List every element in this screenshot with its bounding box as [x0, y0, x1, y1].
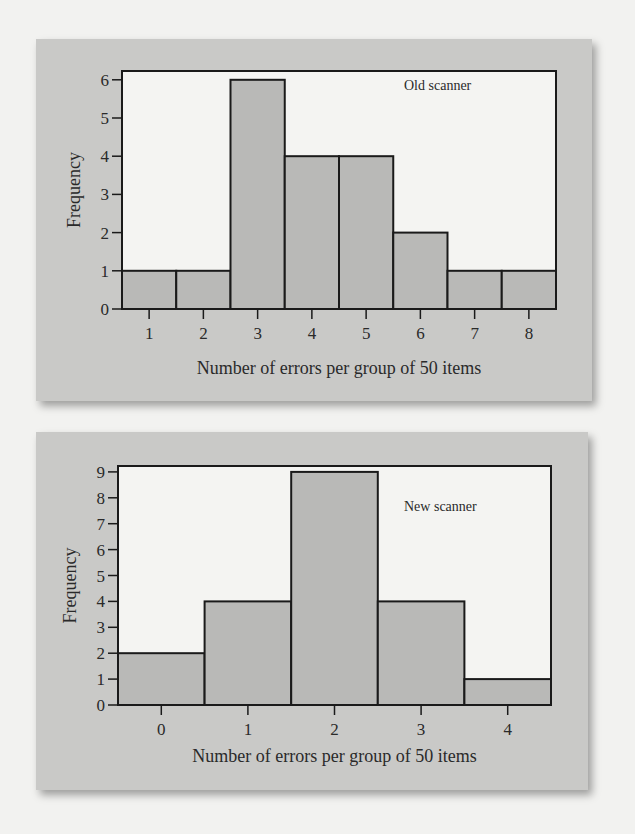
y-tick-label: 5 — [101, 109, 110, 128]
y-tick-label: 9 — [97, 463, 106, 482]
chart-annotation: Old scanner — [404, 78, 472, 93]
x-tick-label: 4 — [503, 720, 512, 739]
histogram-bar — [122, 271, 176, 309]
chart-annotation: New scanner — [404, 499, 477, 514]
y-tick-label: 0 — [101, 300, 110, 319]
x-tick-label: 3 — [253, 324, 262, 343]
histogram-bar — [502, 271, 556, 309]
histogram-bar — [378, 601, 465, 705]
y-axis-label: Frequency — [64, 152, 84, 228]
x-axis-label: Number of errors per group of 50 items — [192, 746, 476, 766]
x-tick-label: 3 — [417, 720, 426, 739]
y-tick-label: 0 — [97, 696, 106, 715]
y-tick-label: 8 — [97, 489, 106, 508]
old-scanner-histogram: 012345612345678Number of errors per grou… — [36, 39, 592, 401]
histogram-bar — [393, 233, 447, 309]
x-tick-label: 7 — [470, 324, 479, 343]
y-axis-label: Frequency — [60, 548, 80, 624]
x-tick-label: 1 — [244, 720, 253, 739]
y-tick-label: 3 — [101, 185, 110, 204]
histogram-bar — [339, 156, 393, 309]
x-tick-label: 6 — [416, 324, 425, 343]
y-tick-label: 7 — [97, 515, 106, 534]
x-tick-label: 5 — [362, 324, 371, 343]
x-tick-label: 1 — [145, 324, 154, 343]
y-tick-label: 2 — [101, 224, 110, 243]
histogram-bar — [231, 80, 285, 309]
new-scanner-histogram: 012345678901234Number of errors per grou… — [36, 432, 588, 790]
y-tick-label: 6 — [97, 541, 106, 560]
x-tick-label: 4 — [308, 324, 317, 343]
y-tick-label: 4 — [97, 592, 106, 611]
x-tick-label: 0 — [157, 720, 166, 739]
histogram-bar — [285, 156, 339, 309]
y-tick-label: 5 — [97, 567, 106, 586]
new-scanner-panel: 012345678901234Number of errors per grou… — [36, 432, 588, 790]
histogram-bar — [448, 271, 502, 309]
y-tick-label: 4 — [101, 147, 110, 166]
histogram-bar — [464, 679, 551, 705]
x-tick-label: 2 — [330, 720, 339, 739]
histogram-bar — [291, 472, 378, 705]
y-tick-label: 2 — [97, 644, 106, 663]
y-tick-label: 1 — [101, 262, 110, 281]
histogram-bar — [176, 271, 230, 309]
histogram-bar — [205, 601, 292, 705]
histogram-bar — [118, 653, 205, 705]
y-tick-label: 3 — [97, 618, 106, 637]
x-tick-label: 2 — [199, 324, 208, 343]
x-axis-label: Number of errors per group of 50 items — [197, 358, 481, 378]
y-tick-label: 1 — [97, 670, 106, 689]
old-scanner-panel: 012345612345678Number of errors per grou… — [36, 39, 592, 401]
x-tick-label: 8 — [525, 324, 534, 343]
y-tick-label: 6 — [101, 71, 110, 90]
